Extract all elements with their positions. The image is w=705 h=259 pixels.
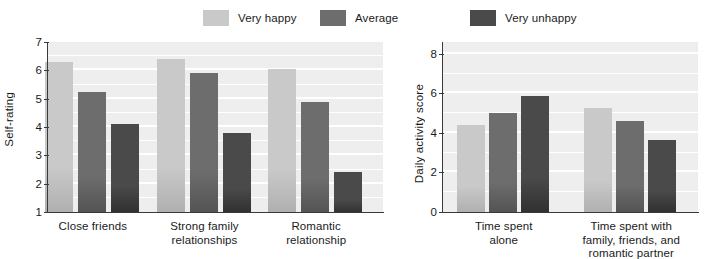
x-axis-line-right bbox=[442, 212, 699, 213]
legend-swatch-very-happy bbox=[203, 10, 229, 26]
x-tick-label: Romantic relationship bbox=[256, 220, 376, 247]
y-tick-label: 4 bbox=[407, 126, 437, 140]
y-tick-mark bbox=[44, 70, 49, 71]
bar bbox=[648, 140, 676, 212]
bar bbox=[268, 69, 296, 212]
y-tick-mark bbox=[439, 54, 444, 55]
chart-figure: Very happy Average Very unhappy Self-rat… bbox=[0, 0, 705, 259]
legend-label-average: Average bbox=[355, 12, 398, 24]
x-tick-label: Time spent alone bbox=[439, 220, 569, 247]
y-tick-mark bbox=[439, 172, 444, 173]
bar bbox=[616, 121, 644, 212]
bar bbox=[489, 113, 517, 212]
y-axis-line-right bbox=[442, 42, 443, 213]
y-tick-label: 7 bbox=[12, 35, 42, 49]
bar bbox=[190, 73, 218, 212]
bar bbox=[157, 59, 185, 212]
x-tick-label: Strong family relationships bbox=[145, 220, 265, 247]
bar-group-right bbox=[443, 42, 698, 212]
bar bbox=[521, 96, 549, 212]
y-tick-mark bbox=[44, 42, 49, 43]
bar bbox=[223, 133, 251, 212]
y-tick-mark bbox=[44, 212, 49, 213]
bar bbox=[301, 102, 329, 213]
legend: Very happy Average Very unhappy bbox=[0, 6, 705, 30]
bar bbox=[111, 124, 139, 212]
bar-group-left bbox=[48, 42, 383, 212]
y-tick-label: 6 bbox=[407, 86, 437, 100]
legend-label-very-happy: Very happy bbox=[238, 12, 297, 24]
y-tick-label: 6 bbox=[12, 63, 42, 77]
legend-item-very-unhappy: Very unhappy bbox=[470, 9, 577, 27]
chart-panel-left: Self-rating 1234567 Close friendsStrong … bbox=[0, 36, 392, 259]
x-axis-line-left bbox=[47, 212, 384, 213]
plot-area-left bbox=[48, 42, 383, 212]
bar bbox=[45, 62, 73, 212]
chart-panel-right: Daily activity score 02468 Time spent al… bbox=[400, 36, 705, 259]
x-tick-label: Close friends bbox=[33, 220, 153, 234]
legend-swatch-very-unhappy bbox=[470, 10, 496, 26]
y-tick-label: 0 bbox=[407, 205, 437, 219]
legend-item-very-happy: Very happy bbox=[203, 9, 297, 27]
x-tick-label: Time spent with family, friends, and rom… bbox=[566, 220, 696, 259]
legend-swatch-average bbox=[320, 10, 346, 26]
y-tick-mark bbox=[44, 155, 49, 156]
legend-item-average: Average bbox=[320, 9, 398, 27]
y-tick-label: 4 bbox=[12, 120, 42, 134]
bar bbox=[334, 172, 362, 212]
y-tick-label: 3 bbox=[12, 148, 42, 162]
plot-area-right bbox=[443, 42, 698, 212]
y-tick-mark bbox=[44, 184, 49, 185]
y-tick-mark bbox=[439, 133, 444, 134]
y-tick-label: 2 bbox=[12, 177, 42, 191]
y-tick-mark bbox=[439, 93, 444, 94]
bar bbox=[457, 125, 485, 212]
bar bbox=[584, 108, 612, 212]
y-tick-mark bbox=[44, 127, 49, 128]
y-tick-mark bbox=[439, 212, 444, 213]
y-tick-label: 5 bbox=[12, 92, 42, 106]
y-tick-label: 1 bbox=[12, 205, 42, 219]
bar bbox=[78, 92, 106, 212]
y-tick-label: 2 bbox=[407, 165, 437, 179]
legend-label-very-unhappy: Very unhappy bbox=[505, 12, 577, 24]
y-tick-mark bbox=[44, 99, 49, 100]
y-tick-label: 8 bbox=[407, 47, 437, 61]
